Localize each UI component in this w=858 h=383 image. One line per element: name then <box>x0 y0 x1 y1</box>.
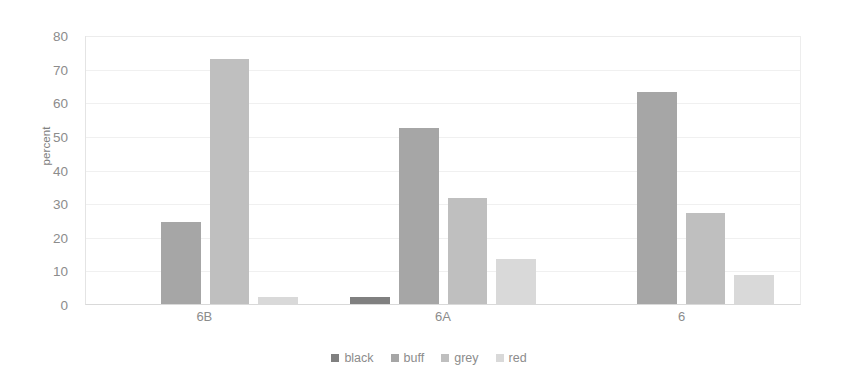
bar-red-6[interactable] <box>734 275 774 304</box>
x-axis-tick-label: 6A <box>324 309 563 324</box>
legend-swatch-icon <box>441 354 449 362</box>
y-axis-tick-label: 30 <box>0 197 76 212</box>
y-axis-tick-label: 70 <box>0 62 76 77</box>
bar-grey-6[interactable] <box>686 213 726 304</box>
legend-item-buff[interactable]: buff <box>391 352 425 365</box>
legend-swatch-icon <box>331 354 339 362</box>
legend-label: buff <box>404 352 425 365</box>
y-axis-tick-label: 80 <box>0 29 76 44</box>
legend-label: red <box>509 352 527 365</box>
bar-buff-6B[interactable] <box>161 222 201 304</box>
bar-buff-6A[interactable] <box>399 128 439 304</box>
plot-area <box>85 36 801 305</box>
y-axis-tick-label: 0 <box>0 298 76 313</box>
bar-red-6A[interactable] <box>496 259 536 304</box>
x-axis-tick-label: 6B <box>85 309 324 324</box>
bar-group-inner <box>588 36 774 304</box>
x-axis-tick-label: 6 <box>562 309 801 324</box>
bar-red-6B[interactable] <box>258 297 298 304</box>
legend: blackbuffgreyred <box>0 352 858 365</box>
bar-group <box>86 36 324 304</box>
legend-item-grey[interactable]: grey <box>441 352 478 365</box>
legend-label: grey <box>454 352 478 365</box>
y-axis-tick-label: 60 <box>0 96 76 111</box>
legend-swatch-icon <box>496 354 504 362</box>
bar-grey-6B[interactable] <box>210 59 250 304</box>
bar-chart: percent 01020304050607080 6B6A6 blackbuf… <box>0 0 858 383</box>
legend-label: black <box>344 352 373 365</box>
y-axis-tick-labels: 01020304050607080 <box>0 36 76 305</box>
y-axis-tick-label: 10 <box>0 264 76 279</box>
y-axis-tick-label: 20 <box>0 230 76 245</box>
y-axis-tick-label: 40 <box>0 163 76 178</box>
bar-groups <box>86 36 800 304</box>
y-axis-tick-label: 50 <box>0 129 76 144</box>
x-axis-tick-labels: 6B6A6 <box>85 309 801 324</box>
bar-grey-6A[interactable] <box>448 198 488 304</box>
bar-black-6A[interactable] <box>350 297 390 304</box>
legend-item-black[interactable]: black <box>331 352 373 365</box>
legend-swatch-icon <box>391 354 399 362</box>
legend-item-red[interactable]: red <box>496 352 527 365</box>
bar-group-inner <box>350 36 536 304</box>
bar-buff-6[interactable] <box>637 92 677 304</box>
bar-group <box>324 36 562 304</box>
bar-group-inner <box>112 36 298 304</box>
bar-group <box>562 36 800 304</box>
